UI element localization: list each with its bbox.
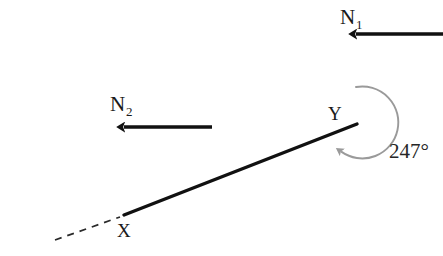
diagram-canvas: X Y N 1 N 2 247° (0, 0, 443, 256)
point-label-x: X (117, 220, 131, 241)
bearing-diagram-svg: X Y N 1 N 2 247° (0, 0, 443, 256)
north-label-n2-letter: N (110, 92, 125, 116)
angle-label: 247° (389, 139, 429, 163)
dashed-extension-line (55, 217, 120, 240)
north-label-n1-subscript: 1 (356, 17, 363, 32)
segment-xy (124, 124, 357, 215)
north-label-n1-letter: N (340, 5, 355, 29)
point-label-y: Y (328, 103, 342, 124)
north-label-n1: N 1 (340, 5, 363, 32)
north-label-n2-subscript: 2 (126, 104, 133, 119)
north-label-n2: N 2 (110, 92, 133, 119)
